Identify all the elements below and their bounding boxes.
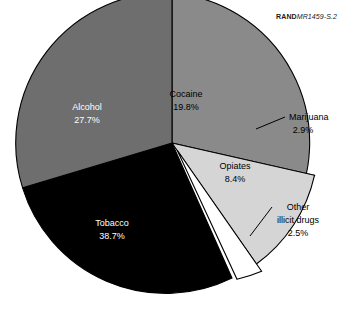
slice-label-marijuana-name: Marijuana	[289, 112, 329, 122]
slice-label-tobacco-value: 38.7%	[99, 231, 125, 241]
pie-chart-svg: Cocaine 19.8% Marijuana 2.9% Opiates 8.4…	[0, 0, 345, 316]
slice-label-other-illicit-drugs-value: 2.5%	[288, 228, 309, 238]
slice-label-alcohol-name: Alcohol	[72, 102, 102, 112]
pie-slices	[16, 0, 315, 293]
slice-label-opiates-name: Opiates	[219, 161, 251, 171]
pie-chart-figure: RANDMR1459-S.2 Cocaine 19.8% Marijuana 2…	[0, 0, 345, 316]
slice-label-cocaine-value: 19.8%	[173, 102, 199, 112]
slice-label-other-illicit-drugs-name2: illicit drugs	[277, 215, 320, 225]
slice-label-tobacco-name: Tobacco	[95, 218, 129, 228]
slice-label-opiates-value: 8.4%	[225, 174, 246, 184]
slice-label-other-illicit-drugs-name: Other	[287, 202, 310, 212]
slice-label-cocaine-name: Cocaine	[169, 89, 202, 99]
slice-label-alcohol-value: 27.7%	[74, 115, 100, 125]
slice-label-marijuana-value: 2.9%	[293, 125, 314, 135]
